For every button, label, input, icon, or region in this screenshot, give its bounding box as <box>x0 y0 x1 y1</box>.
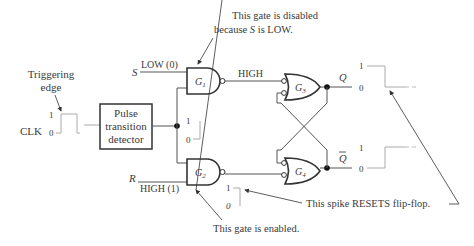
annotation-disabled-2: because S is LOW. <box>214 24 293 35</box>
g1-inversion-bubble <box>220 79 225 84</box>
triggering-edge-label-2: edge <box>41 81 62 93</box>
r-value-label: HIGH (1) <box>140 183 179 195</box>
detector-label-3: detector <box>108 133 144 145</box>
annotation-disabled-arrow <box>198 38 213 64</box>
spike-high-label: 1 <box>186 116 191 126</box>
g2-inversion-bubble <box>220 170 225 175</box>
g2out-high-label: 1 <box>226 183 231 193</box>
triggering-edge-arrow <box>55 95 61 111</box>
annotation-enabled-arrow-line <box>196 190 222 220</box>
g4-input-bubble-1 <box>282 161 287 166</box>
annotation-enabled: This gate is enabled. <box>213 223 299 234</box>
clk-low-label: 0 <box>49 128 54 138</box>
q-high-label: 1 <box>359 61 364 71</box>
q-label: Q <box>339 72 347 83</box>
g4-input-bubble-2 <box>282 173 287 178</box>
detector-label-2: transition <box>105 120 147 132</box>
q-low-label: 0 <box>359 83 364 93</box>
g2out-low-label: 0 <box>226 201 231 211</box>
clk-label: CLK <box>20 125 42 137</box>
g3-input-bubble-1 <box>282 79 287 84</box>
detector-label-1: Pulse <box>114 107 138 119</box>
g2-output-spike-waveform <box>233 188 240 206</box>
g3-input-bubble-2 <box>282 91 287 96</box>
s-input-label: S <box>132 66 138 78</box>
qbar-waveform <box>367 147 405 168</box>
clk-high-label: 1 <box>49 110 54 120</box>
r-input-label: R <box>128 172 136 184</box>
clk-waveform <box>56 114 80 133</box>
spike-waveform <box>193 121 200 139</box>
triggering-edge-label: Triggering <box>28 68 75 80</box>
annotation-spike-arrow <box>245 190 302 203</box>
q-waveform <box>367 66 405 87</box>
sr-latch-diagram: Triggering edge CLK 1 0 Pulse transition… <box>0 0 474 246</box>
qbar-low-label: 0 <box>359 164 364 174</box>
spike-low-label: 0 <box>186 135 191 145</box>
annotation-disabled-1: This gate is disabled <box>232 10 319 21</box>
feedback-qbar-to-g3 <box>277 93 327 168</box>
annotation-spike-resets: This spike RESETS flip-flop. <box>306 198 430 209</box>
qbar-high-label: 1 <box>359 143 364 153</box>
g1-output-label: HIGH <box>238 68 263 79</box>
s-value-label: LOW (0) <box>141 59 178 71</box>
qbar-label: Q <box>339 153 347 164</box>
